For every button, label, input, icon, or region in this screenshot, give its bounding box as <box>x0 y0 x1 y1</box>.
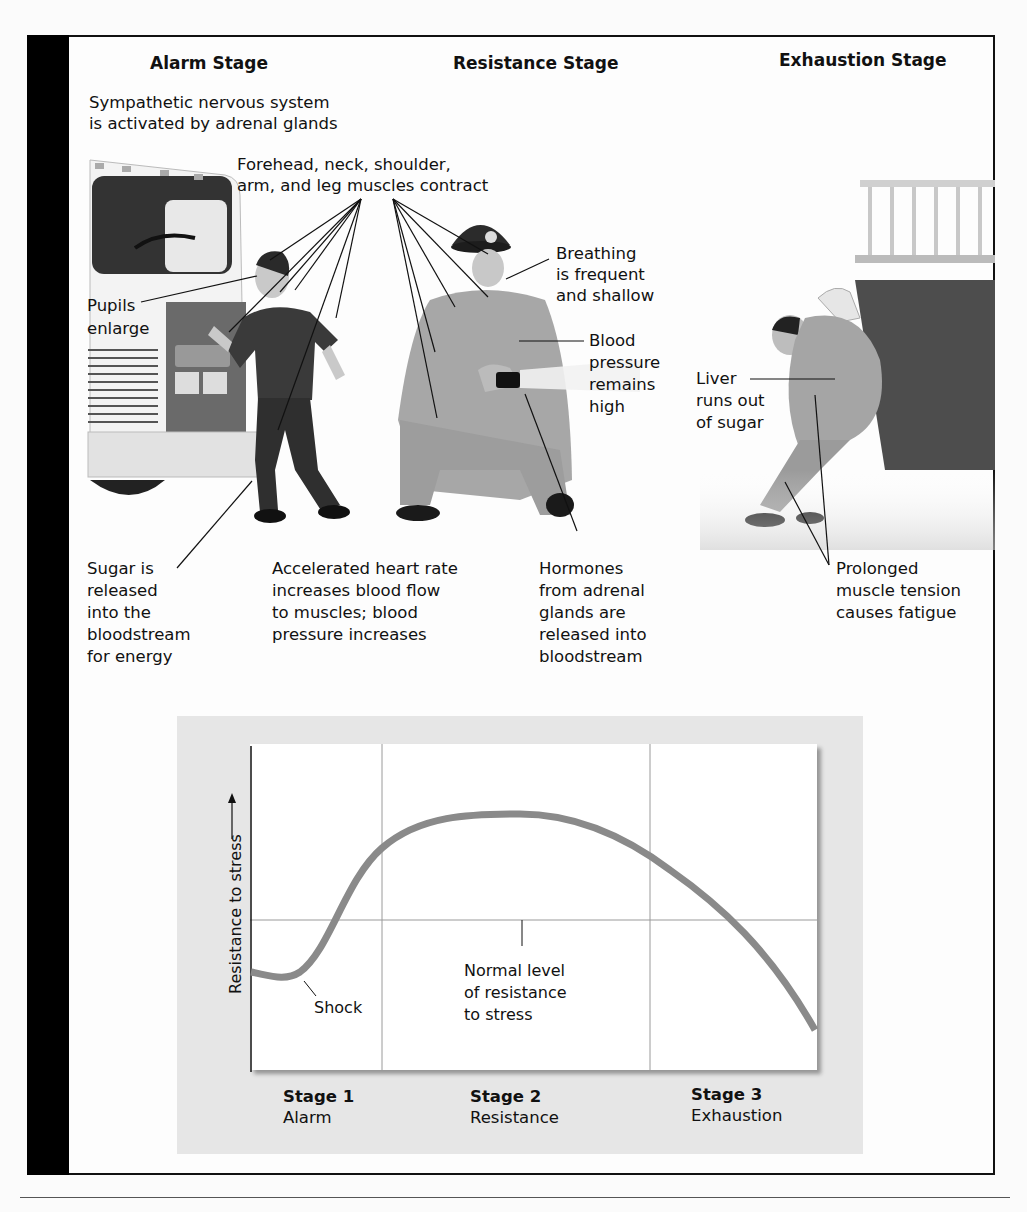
normal-level-line2: of resistance <box>464 982 567 1003</box>
chart-svg <box>0 0 1027 1212</box>
shock-leader <box>304 981 316 996</box>
normal-level-line3: to stress <box>464 1004 533 1025</box>
stage-1-label: Stage 1 Alarm <box>283 1086 354 1128</box>
shock-label: Shock <box>314 997 362 1018</box>
stage-3-label: Stage 3 Exhaustion <box>691 1084 782 1126</box>
chart-y-label: Resistance to stress <box>226 754 250 994</box>
chart-gridlines <box>250 744 817 1070</box>
normal-level-line1: Normal level <box>464 960 565 981</box>
stage-2-label: Stage 2 Resistance <box>470 1086 559 1128</box>
